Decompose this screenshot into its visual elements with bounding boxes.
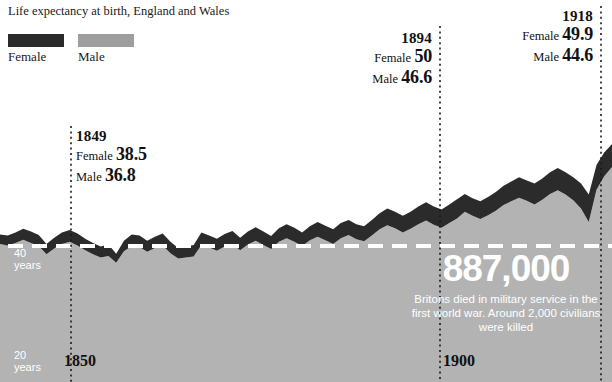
annotation-1918: 1918 Female 49.9 Male 44.6	[430, 8, 593, 67]
annotation-1894-male-value: 46.6	[401, 67, 432, 87]
annotation-1894-female-key: Female	[374, 51, 411, 65]
y-axis-label-20-value: 20	[14, 349, 41, 361]
annotation-1918-male-key: Male	[533, 50, 559, 64]
x-axis-label-1850: 1850	[64, 352, 96, 370]
annotation-1849-male: Male 36.8	[76, 166, 147, 187]
y-axis-label-40-years: 40 years	[14, 247, 41, 271]
annotation-1849-male-key: Male	[76, 170, 102, 184]
annotation-1849-female-value: 38.5	[116, 144, 147, 164]
y-axis-label-20-unit: years	[14, 361, 41, 373]
y-axis-label-40-value: 40	[14, 247, 41, 259]
chart-figure: Life expectancy at birth, England and Wa…	[0, 0, 612, 382]
annotation-1918-female: Female 49.9	[430, 25, 593, 46]
annotation-1918-year: 1918	[430, 8, 593, 25]
annotation-1849-year: 1849	[76, 128, 147, 145]
annotation-1894-female: Female 50	[264, 47, 432, 68]
annotation-1918-male: Male 44.6	[430, 46, 593, 67]
legend-swatch-male	[78, 34, 134, 47]
callout-war-deaths: 887,000 Britons died in military service…	[408, 250, 604, 334]
annotation-1918-female-value: 49.9	[562, 24, 593, 44]
y-axis-label-40-unit: years	[14, 259, 41, 271]
legend-swatch-female	[8, 34, 64, 47]
legend-item-male: Male	[78, 34, 134, 64]
annotation-1894-male: Male 46.6	[264, 68, 432, 89]
callout-body: Britons died in military service in the …	[408, 292, 604, 334]
chart-title: Life expectancy at birth, England and Wa…	[8, 4, 229, 19]
annotation-1849: 1849 Female 38.5 Male 36.8	[76, 128, 147, 187]
legend-label-male: Male	[78, 49, 134, 64]
annotation-1849-male-value: 36.8	[105, 165, 136, 185]
annotation-1894-year: 1894	[264, 30, 432, 47]
annotation-1849-female-key: Female	[76, 149, 113, 163]
annotation-1918-male-value: 44.6	[562, 45, 593, 65]
legend-item-female: Female	[8, 34, 64, 64]
annotation-1894-male-key: Male	[372, 72, 398, 86]
x-axis-label-1900: 1900	[443, 352, 475, 370]
callout-number: 887,000	[408, 250, 604, 288]
y-axis-label-20-years: 20 years	[14, 349, 41, 373]
annotation-1918-female-key: Female	[522, 29, 559, 43]
annotation-1894: 1894 Female 50 Male 46.6	[264, 30, 432, 89]
legend-label-female: Female	[8, 49, 64, 64]
annotation-1849-female: Female 38.5	[76, 145, 147, 166]
